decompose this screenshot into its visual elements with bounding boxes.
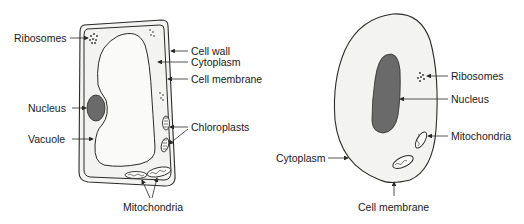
label-animal-ribosomes: Ribosomes: [451, 70, 504, 82]
plant-nucleus: [87, 95, 105, 121]
label-plant-cytoplasm: Cytoplasm: [191, 56, 241, 68]
label-animal-cytoplasm: Cytoplasm: [276, 152, 326, 164]
plant-cell: Ribosomes Cell wall Cytoplasm Cell membr…: [14, 20, 262, 213]
label-plant-chloroplasts: Chloroplasts: [191, 121, 249, 133]
label-plant-ribosomes: Ribosomes: [14, 32, 67, 44]
label-plant-nucleus: Nucleus: [28, 102, 66, 114]
label-plant-vacuole: Vacuole: [28, 133, 65, 145]
animal-cell: Ribosomes Nucleus Mitochondria Cytoplasm…: [276, 14, 511, 213]
label-plant-cell-membrane: Cell membrane: [191, 73, 262, 85]
cell-diagram: Ribosomes Cell wall Cytoplasm Cell membr…: [0, 0, 524, 224]
label-animal-mitochondria: Mitochondria: [451, 130, 511, 142]
label-animal-cell-membrane: Cell membrane: [358, 201, 429, 213]
label-plant-mitochondria: Mitochondria: [123, 201, 183, 213]
label-animal-nucleus: Nucleus: [451, 93, 489, 105]
